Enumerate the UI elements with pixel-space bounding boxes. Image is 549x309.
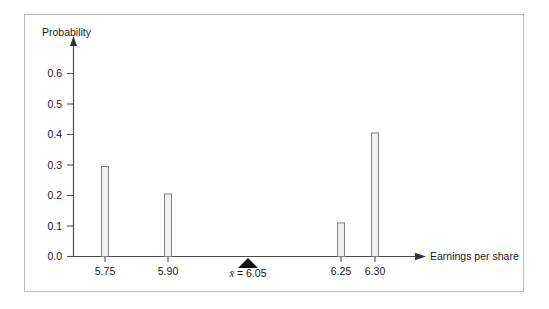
y-tick-label-2: 0.2 [36, 189, 62, 201]
y-axis-ticks [67, 74, 74, 257]
y-tick-label-1: 0.1 [36, 220, 62, 232]
x-tick-label-0: 5.75 [83, 265, 127, 277]
y-tick-label-3: 0.3 [36, 159, 62, 171]
mean-annotation-label: x̄ = 6.05 [203, 267, 293, 279]
x-axis-title: Earnings per share [430, 250, 519, 262]
y-tick-label-6: 0.6 [36, 67, 62, 79]
x-axis-arrowhead [415, 253, 426, 260]
bar-5.75 [102, 167, 109, 257]
y-tick-label-0: 0.0 [36, 250, 62, 262]
y-tick-label-5: 0.5 [36, 98, 62, 110]
mean-equals: = [234, 267, 246, 279]
bar-series [102, 133, 379, 257]
mean-value: 6.05 [246, 267, 266, 279]
x-tick-label-3: 6.30 [353, 265, 397, 277]
y-tick-label-4: 0.4 [36, 128, 62, 140]
x-tick-label-1: 5.90 [146, 265, 190, 277]
x-axis-ticks [105, 257, 375, 263]
y-axis-title: Probability [42, 26, 91, 38]
figure-container: Probability Earnings per share 0.0 0.1 0… [0, 0, 549, 309]
bar-6.25 [338, 223, 345, 257]
bar-6.30 [372, 133, 379, 257]
bar-5.90 [165, 194, 172, 257]
chart-canvas [0, 0, 549, 309]
